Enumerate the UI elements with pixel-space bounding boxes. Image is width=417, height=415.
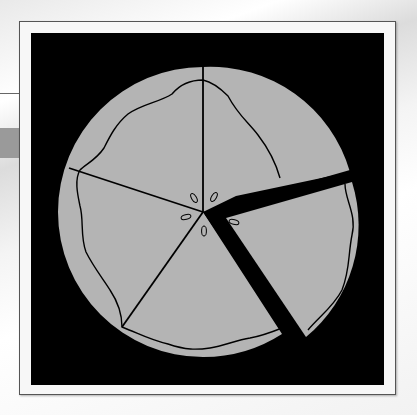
pie-icon xyxy=(0,0,417,415)
